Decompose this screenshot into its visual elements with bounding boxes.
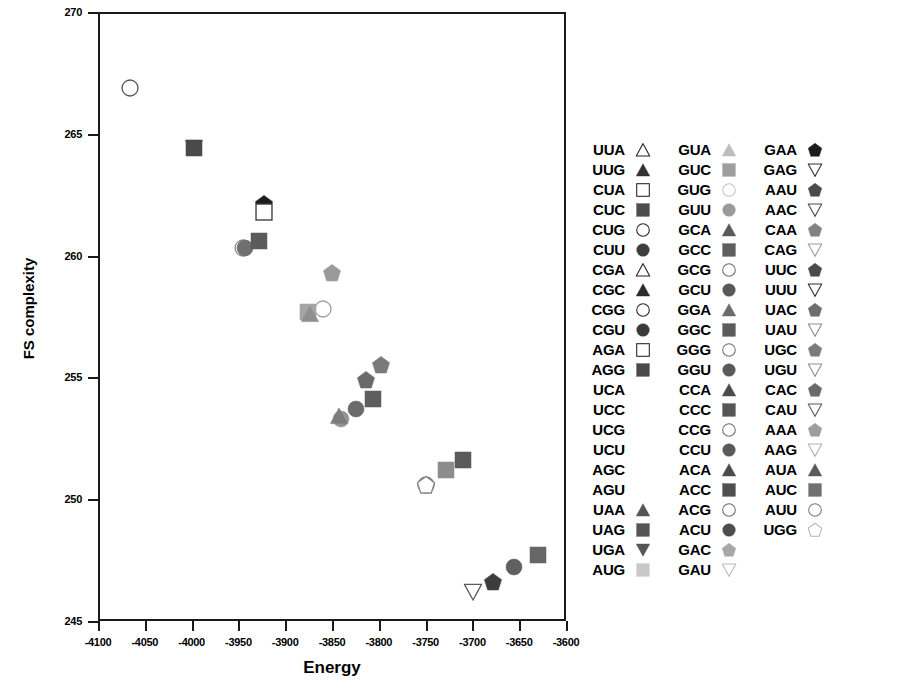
data-point: [463, 582, 482, 605]
square-marker-icon: [722, 163, 737, 178]
legend-item[interactable]: UUC: [747, 260, 833, 280]
legend-item[interactable]: UGU: [747, 360, 833, 380]
legend-item[interactable]: GGC: [661, 320, 747, 340]
legend-item[interactable]: UGG: [747, 520, 833, 540]
legend-item-label: AGA: [575, 340, 625, 360]
legend-item[interactable]: UUU: [747, 280, 833, 300]
triangle-down-open-marker-icon: [808, 243, 823, 258]
legend-item[interactable]: AGA: [575, 340, 661, 360]
legend-item[interactable]: CAC: [747, 380, 833, 400]
x-axis-tick-label: -4000: [178, 636, 205, 648]
legend-item[interactable]: ACC: [661, 480, 747, 500]
legend-item[interactable]: GUA: [661, 140, 747, 160]
legend: UUAUUGCUACUCCUGCUUCGACGCCGGCGUAGAAGGUCAU…: [575, 140, 916, 620]
legend-item[interactable]: CUA: [575, 180, 661, 200]
legend-item[interactable]: AAC: [747, 200, 833, 220]
legend-item[interactable]: UAC: [747, 300, 833, 320]
legend-item-label: UAA: [575, 500, 625, 520]
legend-item[interactable]: CUU: [575, 240, 661, 260]
legend-item[interactable]: GGA: [661, 300, 747, 320]
legend-item[interactable]: CCC: [661, 400, 747, 420]
legend-item[interactable]: CGC: [575, 280, 661, 300]
legend-item-label: GCA: [661, 220, 711, 240]
legend-column: GAAGAGAAUAACCAACAGUUCUUUUACUAUUGCUGUCACC…: [747, 140, 833, 540]
legend-item[interactable]: UCU: [575, 440, 661, 460]
legend-item[interactable]: UAA: [575, 500, 661, 520]
legend-item-symbol: [625, 560, 661, 580]
legend-item[interactable]: GUU: [661, 200, 747, 220]
triangle-up-open-marker-icon: [636, 143, 651, 158]
legend-item[interactable]: AAG: [747, 440, 833, 460]
triangle-down-marker-icon: [636, 543, 651, 558]
y-axis-tick-labels: 245250255260265270: [24, 0, 82, 692]
legend-item-label: GUA: [661, 140, 711, 160]
legend-item[interactable]: AGC: [575, 460, 661, 480]
legend-item[interactable]: GAG: [747, 160, 833, 180]
legend-item[interactable]: AAA: [747, 420, 833, 440]
circle-open-marker-icon: [722, 183, 737, 198]
legend-item[interactable]: CAG: [747, 240, 833, 260]
legend-item-label: CGA: [575, 260, 625, 280]
legend-item[interactable]: UUG: [575, 160, 661, 180]
x-axis-tick-label: -3600: [553, 636, 580, 648]
legend-item[interactable]: GGG: [661, 340, 747, 360]
legend-item[interactable]: ACA: [661, 460, 747, 480]
legend-item[interactable]: GAA: [747, 140, 833, 160]
legend-item[interactable]: ACG: [661, 500, 747, 520]
legend-item[interactable]: CUG: [575, 220, 661, 240]
y-axis-tick-label: 255: [30, 371, 82, 383]
legend-item-label: GGA: [661, 300, 711, 320]
legend-item-label: UCA: [575, 380, 625, 400]
legend-item[interactable]: AUU: [747, 500, 833, 520]
legend-item[interactable]: CGU: [575, 320, 661, 340]
legend-item[interactable]: CGG: [575, 300, 661, 320]
legend-item[interactable]: GUC: [661, 160, 747, 180]
legend-item[interactable]: GCU: [661, 280, 747, 300]
legend-item[interactable]: UAU: [747, 320, 833, 340]
legend-item[interactable]: CCG: [661, 420, 747, 440]
legend-item[interactable]: CCU: [661, 440, 747, 460]
square-marker-icon: [184, 139, 203, 158]
square-marker-icon: [808, 483, 823, 498]
legend-item[interactable]: CAA: [747, 220, 833, 240]
legend-item[interactable]: CAU: [747, 400, 833, 420]
legend-item-label: CUC: [575, 200, 625, 220]
legend-item[interactable]: GCA: [661, 220, 747, 240]
legend-item[interactable]: GCC: [661, 240, 747, 260]
legend-item[interactable]: AGG: [575, 360, 661, 380]
legend-item[interactable]: UCA: [575, 380, 661, 400]
triangle-up-open-marker-icon: [636, 263, 651, 278]
legend-item[interactable]: UGC: [747, 340, 833, 360]
triangle-down-open-marker-icon: [808, 323, 823, 338]
legend-item[interactable]: CGA: [575, 260, 661, 280]
legend-item-symbol: [625, 280, 661, 300]
y-axis-tick: [88, 134, 98, 136]
legend-item[interactable]: AAU: [747, 180, 833, 200]
legend-item[interactable]: UUA: [575, 140, 661, 160]
legend-item[interactable]: GUG: [661, 180, 747, 200]
legend-item-label: CUU: [575, 240, 625, 260]
legend-item[interactable]: AUC: [747, 480, 833, 500]
legend-item[interactable]: AUA: [747, 460, 833, 480]
legend-item-symbol: [625, 420, 661, 440]
legend-item[interactable]: UGA: [575, 540, 661, 560]
legend-item[interactable]: UAG: [575, 520, 661, 540]
y-axis-tick: [88, 621, 98, 623]
legend-item[interactable]: UCC: [575, 400, 661, 420]
legend-item-symbol: [711, 400, 747, 420]
legend-item-symbol: [625, 200, 661, 220]
legend-item[interactable]: GCG: [661, 260, 747, 280]
legend-item-symbol: [797, 160, 833, 180]
legend-item[interactable]: GAU: [661, 560, 747, 580]
legend-item[interactable]: ACU: [661, 520, 747, 540]
legend-item[interactable]: AGU: [575, 480, 661, 500]
legend-item[interactable]: CUC: [575, 200, 661, 220]
legend-item-label: GAC: [661, 540, 711, 560]
legend-item[interactable]: AUG: [575, 560, 661, 580]
legend-item[interactable]: GAC: [661, 540, 747, 560]
legend-item[interactable]: GGU: [661, 360, 747, 380]
legend-item[interactable]: CCA: [661, 380, 747, 400]
legend-item[interactable]: UCG: [575, 420, 661, 440]
legend-item-label: CGU: [575, 320, 625, 340]
pentagon-marker-icon: [808, 223, 823, 238]
